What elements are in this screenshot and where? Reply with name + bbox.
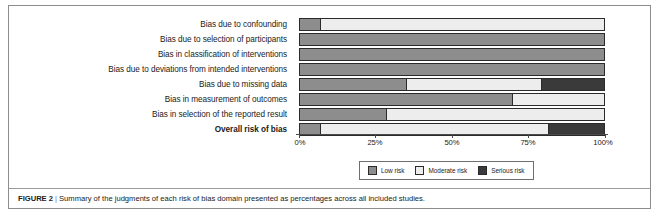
category-label-overall: Overall risk of bias bbox=[9, 123, 287, 136]
x-axis-tick-label: 0% bbox=[295, 138, 306, 147]
legend-item-moderate-risk: Moderate risk bbox=[415, 166, 467, 175]
bar-segment-low-risk bbox=[300, 34, 604, 45]
category-label: Bias due to confounding bbox=[9, 18, 287, 31]
bar-track bbox=[299, 33, 605, 46]
bar-segment-moderate-risk bbox=[407, 79, 541, 90]
figure-caption-text: Summary of the judgments of each risk of… bbox=[59, 194, 425, 203]
bar-segment-moderate-risk bbox=[387, 109, 604, 120]
bar-row: Bias in classification of interventions bbox=[9, 48, 650, 61]
bar-track bbox=[299, 18, 605, 31]
category-label: Bias due to deviations from intended int… bbox=[9, 63, 287, 76]
legend-swatch-low-risk-icon bbox=[368, 166, 377, 175]
bar-row: Bias due to selection of participants bbox=[9, 33, 650, 46]
bar-segment-moderate-risk bbox=[321, 19, 604, 30]
category-label: Bias in measurement of outcomes bbox=[9, 93, 287, 106]
bar-track bbox=[299, 108, 605, 121]
legend-label: Serious risk bbox=[491, 167, 524, 174]
chart-legend: Low risk Moderate risk Serious risk bbox=[359, 161, 534, 180]
x-axis-tick-label: 75% bbox=[520, 138, 535, 147]
legend-swatch-moderate-risk-icon bbox=[415, 166, 424, 175]
category-label: Bias due to missing data bbox=[9, 78, 287, 91]
bar-segment-low-risk bbox=[300, 19, 320, 30]
bar-track bbox=[299, 78, 605, 91]
bar-track bbox=[299, 48, 605, 61]
bar-segment-low-risk bbox=[300, 64, 604, 75]
figure-caption-label: FIGURE 2 bbox=[18, 194, 53, 203]
category-label: Bias due to selection of participants bbox=[9, 33, 287, 46]
bar-row: Bias due to deviations from intended int… bbox=[9, 63, 650, 76]
bar-segment-moderate-risk bbox=[513, 94, 604, 105]
bar-segment-low-risk bbox=[300, 49, 604, 60]
bar-segment-low-risk bbox=[300, 79, 406, 90]
bar-segment-low-risk bbox=[300, 109, 386, 120]
legend-label: Moderate risk bbox=[428, 167, 467, 174]
bar-row: Bias due to confounding bbox=[9, 18, 650, 31]
bar-track bbox=[299, 63, 605, 76]
bar-segment-serious-risk bbox=[542, 79, 604, 90]
legend-label: Low risk bbox=[381, 167, 404, 174]
legend-swatch-serious-risk-icon bbox=[478, 166, 487, 175]
legend-item-low-risk: Low risk bbox=[368, 166, 404, 175]
bar-track bbox=[299, 93, 605, 106]
x-axis-tick-label: 50% bbox=[444, 138, 459, 147]
figure-card: Bias due to confounding Bias due to sele… bbox=[8, 5, 651, 209]
bar-row: Bias due to missing data bbox=[9, 78, 650, 91]
x-axis-tick-label: 25% bbox=[367, 138, 382, 147]
bar-row: Bias in measurement of outcomes bbox=[9, 93, 650, 106]
legend-item-serious-risk: Serious risk bbox=[478, 166, 524, 175]
figure-caption: FIGURE 2|Summary of the judgments of eac… bbox=[18, 194, 643, 203]
bar-row: Bias in selection of the reported result bbox=[9, 108, 650, 121]
x-axis-tick-label: 100% bbox=[593, 138, 612, 147]
category-label: Bias in classification of interventions bbox=[9, 48, 287, 61]
caption-divider bbox=[9, 188, 650, 189]
category-label: Bias in selection of the reported result bbox=[9, 108, 287, 121]
stacked-bar-chart: Bias due to confounding Bias due to sele… bbox=[9, 6, 650, 150]
bar-segment-low-risk bbox=[300, 94, 512, 105]
